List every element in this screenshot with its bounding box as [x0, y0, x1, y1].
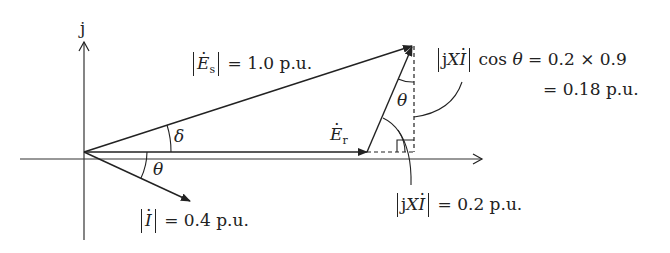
jxi-magnitude-label: jXI = 0.2 p.u.: [394, 193, 522, 217]
projection-annotation-line2: = 0.18 p.u.: [543, 81, 639, 98]
leader-jxi-label: [398, 130, 411, 185]
delta-angle-label: δ: [174, 128, 184, 145]
theta-arc-top: [398, 79, 414, 82]
es-magnitude-label: Es = 1.0 p.u.: [190, 52, 312, 76]
er-label: Er: [330, 126, 348, 146]
theta-angle-label-top: θ: [397, 92, 407, 109]
theta-arc-origin: [141, 152, 147, 178]
leader-annotation: [414, 82, 462, 117]
i-magnitude-label: I = 0.4 p.u.: [138, 209, 249, 233]
delta-arc: [167, 125, 171, 152]
phasor-diagram: j Es = 1.0 p.u. δ θ Er θ I = 0.4 p.u. jX…: [0, 0, 670, 253]
imag-axis-label: j: [80, 20, 85, 37]
projection-annotation-line1: jXI cos θ = 0.2 × 0.9: [435, 48, 627, 72]
theta-angle-label-origin: θ: [153, 161, 163, 178]
